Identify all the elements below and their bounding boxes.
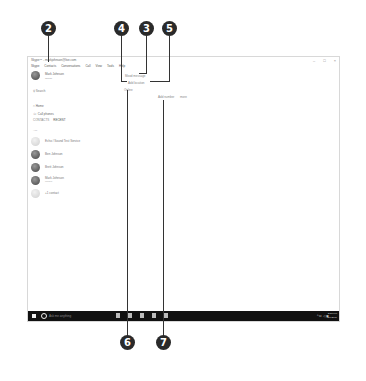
task-view-icon[interactable] bbox=[116, 313, 120, 318]
add-location[interactable]: Add location bbox=[128, 81, 145, 85]
clock-time: 2:58 PM bbox=[327, 312, 337, 316]
callout-5: 5 bbox=[162, 21, 177, 36]
avatar bbox=[31, 150, 40, 159]
start-button[interactable] bbox=[32, 314, 36, 318]
contact-name: Ben Johnson bbox=[45, 152, 63, 156]
clock[interactable]: 2:58 PM 2/1/2016 bbox=[327, 312, 337, 319]
contact-sub: Mobile bbox=[45, 180, 52, 183]
search-input[interactable]: ⚲ Search bbox=[33, 89, 45, 93]
title-bar: Skype™ - markjohnson@live.com – □ × bbox=[28, 57, 339, 64]
nav-home[interactable]: ⌂ Home bbox=[33, 102, 54, 110]
store-icon[interactable] bbox=[152, 313, 156, 318]
minimize-button[interactable]: – bbox=[313, 57, 315, 64]
menu-bar: Skype Contacts Conversations Call View T… bbox=[31, 64, 125, 68]
profile-card[interactable]: Mark Johnson Online bbox=[31, 70, 121, 84]
status-dropdown[interactable]: Online bbox=[124, 88, 133, 92]
menu-contacts[interactable]: Contacts bbox=[44, 64, 56, 68]
window-controls: – □ × bbox=[313, 57, 336, 64]
callout-6: 6 bbox=[120, 335, 135, 350]
tab-recent[interactable]: RECENT bbox=[53, 118, 65, 122]
avatar bbox=[31, 163, 40, 172]
nav-home-label: Home bbox=[36, 104, 44, 108]
callout-7: 7 bbox=[156, 335, 171, 350]
list-item[interactable]: Ben Johnson bbox=[31, 148, 121, 161]
avatar[interactable] bbox=[31, 71, 40, 80]
clock-date: 2/1/2016 bbox=[327, 316, 337, 320]
edge-icon[interactable] bbox=[128, 313, 132, 318]
skype-window: Skype™ - markjohnson@live.com – □ × Skyp… bbox=[27, 56, 340, 322]
callout-line bbox=[163, 100, 164, 336]
menu-conversations[interactable]: Conversations bbox=[61, 64, 80, 68]
list-item[interactable]: Mark JohnsonMobile bbox=[31, 174, 121, 187]
mood-message[interactable]: Mood message bbox=[125, 74, 146, 78]
callout-3: 3 bbox=[139, 21, 154, 36]
tab-contacts[interactable]: CONTACTS bbox=[33, 118, 49, 122]
callout-line bbox=[150, 81, 170, 82]
search-label: Search bbox=[36, 89, 46, 93]
avatar bbox=[31, 176, 40, 185]
add-number-link[interactable]: Add number bbox=[158, 95, 174, 99]
callout-line bbox=[121, 81, 127, 82]
contact-list: Echo / Sound Test Service Ben Johnson Br… bbox=[31, 135, 121, 200]
windows-taskbar: Ask me anything ^ ⊡ ◁ ▣ 2:58 PM 2/1/2016 bbox=[28, 311, 339, 321]
callout-line bbox=[146, 36, 147, 74]
menu-view[interactable]: View bbox=[96, 64, 102, 68]
list-item[interactable]: +1 contact bbox=[31, 187, 121, 200]
maximize-button[interactable]: □ bbox=[323, 57, 325, 64]
callout-line bbox=[169, 36, 170, 82]
callout-line bbox=[48, 36, 49, 62]
profile-name: Mark Johnson bbox=[45, 72, 64, 76]
contact-name: Echo / Sound Test Service bbox=[45, 139, 80, 143]
callout-line bbox=[127, 90, 128, 336]
menu-help[interactable]: Help bbox=[119, 64, 125, 68]
callout-line bbox=[139, 73, 147, 74]
menu-call[interactable]: Call bbox=[85, 64, 90, 68]
nav-call-phones-label: Call phones bbox=[38, 112, 54, 116]
skype-taskbar-icon[interactable] bbox=[164, 313, 168, 318]
menu-tools[interactable]: Tools bbox=[107, 64, 114, 68]
window-title: Skype™ - markjohnson@live.com bbox=[31, 57, 76, 64]
menu-skype[interactable]: Skype bbox=[31, 64, 39, 68]
list-filter-label[interactable]: ALL bbox=[33, 129, 37, 132]
contact-tabs: CONTACTS RECENT bbox=[33, 118, 66, 122]
list-item[interactable]: Brett Johnson bbox=[31, 161, 121, 174]
nav-call-phones[interactable]: ☏ Call phones bbox=[33, 110, 54, 118]
taskbar-search[interactable]: Ask me anything bbox=[49, 314, 71, 318]
cortana-icon[interactable] bbox=[41, 313, 47, 319]
callout-4: 4 bbox=[114, 21, 129, 36]
contact-name: Brett Johnson bbox=[45, 165, 64, 169]
avatar bbox=[31, 137, 40, 146]
more-link[interactable]: more bbox=[180, 95, 187, 99]
profile-status[interactable]: Online bbox=[45, 77, 52, 80]
file-explorer-icon[interactable] bbox=[140, 313, 144, 318]
close-button[interactable]: × bbox=[334, 57, 336, 64]
avatar bbox=[31, 189, 40, 198]
nav-list: ⌂ Home ☏ Call phones bbox=[33, 102, 54, 118]
callout-2: 2 bbox=[41, 21, 56, 36]
list-item[interactable]: Echo / Sound Test Service bbox=[31, 135, 121, 148]
taskbar-apps bbox=[116, 313, 168, 318]
callout-line bbox=[121, 36, 122, 82]
contact-name: +1 contact bbox=[45, 191, 59, 195]
